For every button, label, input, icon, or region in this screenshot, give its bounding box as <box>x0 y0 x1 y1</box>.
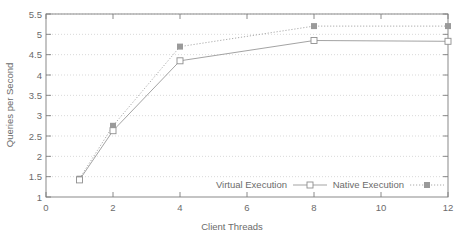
open-square-key-icon <box>307 182 313 188</box>
y-tick-label: 2.5 <box>29 131 42 142</box>
y-tick-label: 4.5 <box>29 49 42 60</box>
data-point-marker <box>445 23 451 29</box>
legend-label-native-execution: Native Execution <box>333 179 404 190</box>
x-tick-label: 0 <box>43 202 48 213</box>
y-tick-label: 5.5 <box>29 9 42 20</box>
y-tick-label: 1.5 <box>29 171 42 182</box>
y-tick-label: 4 <box>37 70 42 81</box>
data-point-marker <box>77 177 83 183</box>
y-tick-label: 5 <box>37 29 42 40</box>
x-tick-label: 2 <box>110 202 115 213</box>
y-tick-label: 3.5 <box>29 90 42 101</box>
legend-label-virtual-execution: Virtual Execution <box>216 179 287 190</box>
data-point-marker <box>110 128 116 134</box>
x-tick-label: 6 <box>244 202 249 213</box>
x-tick-label: 4 <box>177 202 182 213</box>
y-tick-label: 2 <box>37 151 42 162</box>
data-point-marker <box>445 38 451 44</box>
chart-container: 5.5 5 4.5 4 3.5 3 2.5 2 1.5 1 0 2 4 6 8 … <box>0 0 465 236</box>
x-tick-label: 10 <box>376 202 387 213</box>
x-tick-label: 8 <box>311 202 316 213</box>
line-chart: 5.5 5 4.5 4 3.5 3 2.5 2 1.5 1 0 2 4 6 8 … <box>0 0 465 236</box>
y-tick-label: 1 <box>37 192 42 203</box>
x-tick-label: 12 <box>443 202 454 213</box>
data-point-marker <box>311 38 317 44</box>
data-point-marker <box>177 44 183 50</box>
y-axis-title: Queries per Second <box>4 63 15 148</box>
data-point-marker <box>311 23 317 29</box>
filled-square-key-icon <box>424 182 430 188</box>
data-point-marker <box>177 58 183 64</box>
y-tick-label: 3 <box>37 110 42 121</box>
x-axis-title: Client Threads <box>201 221 263 232</box>
chart-background <box>0 0 465 236</box>
